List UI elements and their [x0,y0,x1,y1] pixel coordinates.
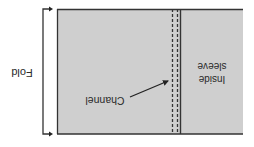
fold-label: Fold [11,67,32,79]
inside-sleeve-label-line2: sleeve [197,61,226,72]
sleeve-diagram: Fold Channel Inside sleeve [0,0,254,147]
channel-label: Channel [85,95,124,107]
diagram-canvas: Fold Channel Inside sleeve [0,0,254,147]
fold-bracket-icon [43,7,53,137]
inside-sleeve-label-line1: Inside [198,74,225,85]
